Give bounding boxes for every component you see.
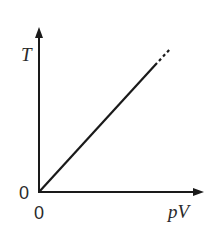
x-axis-label: pV <box>166 201 192 222</box>
x-axis-arrow-icon <box>193 188 204 196</box>
y-origin-label: 0 <box>19 183 29 203</box>
dotted-extension <box>159 49 170 61</box>
proportional-line <box>39 63 157 192</box>
t-vs-pv-graph: T 0 0 pV <box>0 0 218 229</box>
diagram-canvas: T 0 0 pV <box>0 0 218 229</box>
y-axis-arrow-icon <box>35 27 43 38</box>
x-origin-label: 0 <box>34 203 44 223</box>
y-axis-label: T <box>21 44 33 65</box>
